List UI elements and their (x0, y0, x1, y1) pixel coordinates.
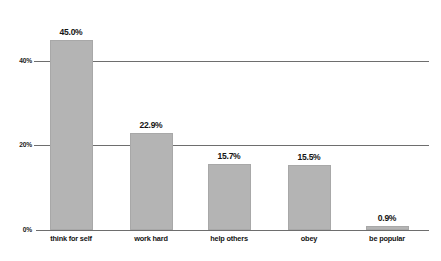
axis-baseline (44, 230, 429, 231)
bar-think-for-self[interactable] (50, 40, 93, 230)
value-label-work-hard: 22.9% (124, 120, 178, 130)
bar-help-others[interactable] (208, 164, 251, 230)
ytick-stub-20 (34, 145, 44, 146)
category-label-be-popular: be popular (346, 235, 429, 243)
gridline-20 (44, 145, 429, 146)
category-label-think-for-self: think for self (30, 235, 113, 243)
value-label-obey: 15.5% (282, 152, 336, 162)
category-label-work-hard: work hard (110, 235, 193, 243)
ytick-label-20: 20% (7, 141, 32, 149)
gridline-40 (44, 61, 429, 62)
bar-chart: 40% 20% 0% 45.0% 22.9% 15.7% 15.5% 0.9% … (0, 0, 441, 261)
plot-area: 40% 20% 0% 45.0% 22.9% 15.7% 15.5% 0.9% … (0, 0, 441, 261)
bar-obey[interactable] (288, 165, 331, 230)
value-label-be-popular: 0.9% (360, 213, 414, 223)
ytick-stub-40 (34, 61, 44, 62)
ytick-label-40: 40% (7, 57, 32, 65)
ytick-label-0: 0% (7, 226, 32, 234)
bar-work-hard[interactable] (130, 133, 173, 230)
category-label-obey: obey (268, 235, 351, 243)
value-label-think-for-self: 45.0% (44, 27, 98, 37)
ytick-stub-0 (36, 230, 44, 231)
bar-be-popular[interactable] (366, 226, 409, 230)
category-label-help-others: help others (188, 235, 271, 243)
value-label-help-others: 15.7% (202, 151, 256, 161)
